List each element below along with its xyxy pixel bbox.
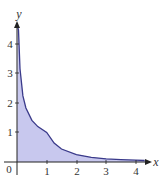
x-tick-label-1: 1 [44,165,50,177]
x-tick-label-2: 2 [74,165,80,177]
y-tick-label-4: 4 [7,38,13,50]
x-tick-label-3: 3 [103,165,109,177]
y-axis-label: y [15,7,22,21]
y-tick-label-2: 2 [7,97,13,109]
x-axis-arrow-icon [145,159,152,165]
y-axis-arrow-icon [14,21,20,28]
origin-label: 0 [6,163,12,175]
area-under-curve [17,26,145,162]
y-tick-label-1: 1 [7,126,13,138]
x-tick-label-4: 4 [133,165,139,177]
y-tick-label-3: 3 [7,67,13,79]
x-axis-label: x [152,155,159,169]
chart: 0 1 2 3 4 1 2 3 4 x y [0,0,162,178]
